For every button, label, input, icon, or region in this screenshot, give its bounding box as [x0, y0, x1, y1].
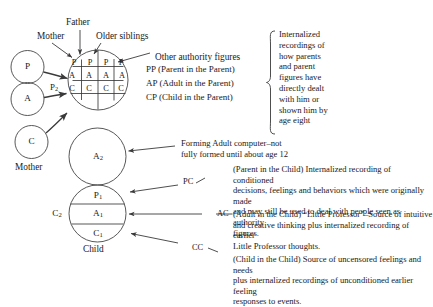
note-cc-line-1: (Child in the Child) Source of uncensore… [233, 254, 433, 275]
adult-circle-letter: A [93, 151, 100, 161]
child-segment-ac-subscript: 1 [100, 211, 103, 218]
arrow-older-siblings [94, 43, 101, 54]
parent-cell-a-1: A [65, 72, 79, 80]
parent-legend-cp: CP (Child in the Parent) [146, 93, 233, 102]
parent-cell-c-1: C [65, 85, 79, 93]
note-ac-line-2: and creative thinking plus internalized … [233, 220, 433, 241]
brace-note-line-2: recordings of [279, 40, 365, 51]
note-cc-line-2: plus internalized recordings of uncondit… [233, 275, 433, 296]
child-segment-ac-label: A1 [86, 209, 110, 219]
note-cc: (Child in the Child) Source of uncensore… [233, 254, 433, 307]
brace-note: Internalized recordings of how parents a… [279, 29, 365, 126]
callout-label-father: Father [66, 18, 90, 27]
child-segment-cc-label: C1 [86, 229, 110, 239]
child-segment-ac-letter: A [93, 208, 100, 218]
note-pc-line-2: decisions, feelings and behaviors which … [233, 185, 433, 206]
parent-cell-a-2: A [82, 72, 96, 80]
parent-cell-p-4: P [114, 59, 128, 67]
parent-legend-ap: AP (Adult in the Parent) [146, 79, 234, 88]
note-ac: (Adult in the Child) “Little Professor”–… [233, 209, 433, 251]
brace-note-line-3: how parents [279, 51, 365, 62]
arrow-pc [130, 185, 178, 192]
note-ac-line-3: Little Professor thoughts. [233, 241, 433, 252]
tag-pc: PC [183, 178, 193, 186]
brace-note-line-4: and parent [279, 61, 365, 72]
source-circle-a-label: A [16, 94, 39, 103]
parent-cell-a-4: A [115, 72, 129, 80]
adult-circle-subscript: 2 [100, 154, 103, 161]
source-circle-c-label: C [20, 137, 43, 146]
parent-cell-c-2: C [82, 85, 96, 93]
brace-note-line-9: age eight [279, 115, 365, 126]
parent-influence-label: P2 [50, 83, 58, 93]
parent-cell-p-2: P [83, 59, 97, 67]
parent-legend-pp: PP (Parent in the Parent) [146, 65, 235, 74]
tag-cc: CC [192, 244, 203, 252]
callout-label-other-authority-figures: Other authority figures [155, 53, 240, 62]
child-segment-pc-label: P1 [86, 191, 110, 201]
arrow-source-p [44, 72, 68, 79]
arrow-mother [52, 43, 72, 58]
callout-label-mother: Mother [37, 32, 64, 41]
parent-cell-p-1: P [67, 59, 81, 67]
adult-note: Forming Adult computer–not fully formed … [181, 138, 371, 160]
brace-note-line-5: figures have [279, 72, 365, 83]
child-circle-outer-subscript: 2 [58, 211, 61, 218]
arrow-cc [131, 234, 178, 244]
parent-cell-p-3: P [99, 59, 113, 67]
note-brace [267, 31, 276, 134]
child-segment-pc-subscript: 1 [99, 193, 102, 200]
child-circle-caption: Child [83, 245, 104, 254]
tag-ac: AC [217, 210, 229, 218]
note-cc-line-3: responses to events. [233, 296, 433, 307]
source-circle-p-label: P [16, 62, 39, 71]
arrow-adult-note [129, 146, 176, 151]
brace-note-line-7: with him or [279, 94, 365, 105]
arrow-source-a [44, 94, 67, 98]
parent-cell-c-4: C [114, 85, 128, 93]
parent-influence-subscript: 2 [55, 85, 58, 92]
child-circle-outer-label: C2 [47, 209, 67, 219]
brace-note-line-1: Internalized [279, 29, 365, 40]
note-ac-line-1: (Adult in the Child) “Little Professor”–… [233, 209, 433, 220]
adult-note-line-1: Forming Adult computer–not [181, 138, 371, 149]
callout-label-older-siblings: Older siblings [96, 32, 148, 41]
note-pc-line-1: (Parent in the Child) Internalized recor… [233, 164, 433, 185]
arrow-source-c [46, 113, 67, 133]
child-segment-cc-subscript: 1 [99, 231, 102, 238]
brace-note-line-6: directly dealt [279, 83, 365, 94]
parent-cell-c-3: C [99, 85, 113, 93]
parent-cell-a-3: A [99, 72, 113, 80]
leader-pc-right [196, 178, 205, 183]
adult-circle-label: A2 [86, 152, 110, 162]
brace-note-line-8: shown him by [279, 105, 365, 116]
source-group-caption: Mother [15, 163, 42, 172]
adult-note-line-2: fully formed until about age 12 [181, 149, 371, 160]
leader-cc-right [208, 248, 218, 252]
